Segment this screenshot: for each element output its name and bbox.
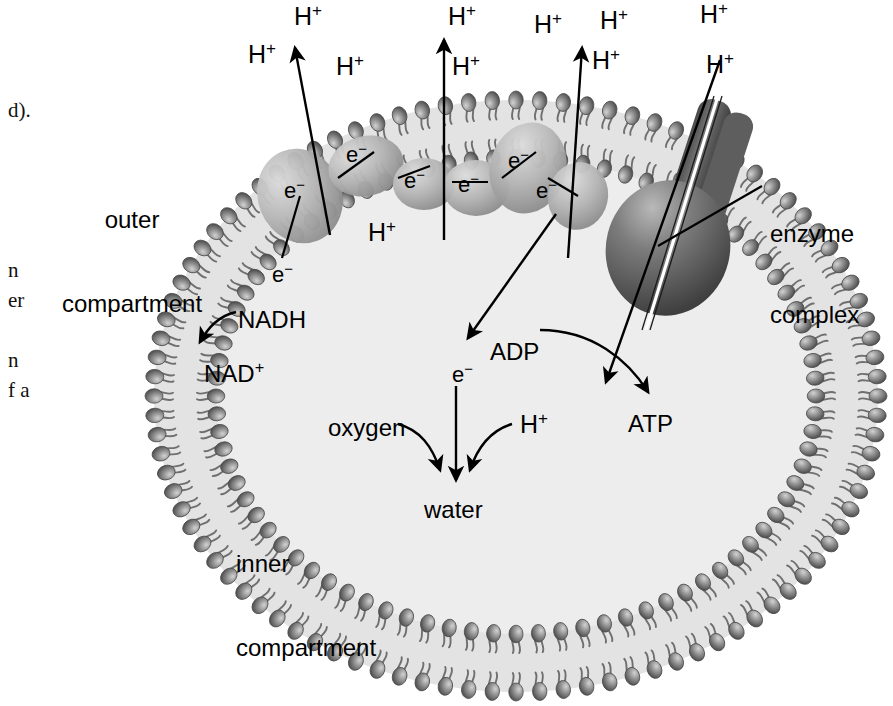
electron-label-text: e	[284, 178, 296, 203]
molecule-label-water-text: water	[424, 496, 483, 523]
electron-label-text: e	[508, 148, 520, 173]
proton-label-text: H	[368, 218, 386, 246]
molecule-label-nadh-text: NADH	[238, 306, 306, 333]
proton-label: H+	[452, 52, 480, 81]
proton-label-charge: +	[386, 217, 396, 236]
proton-label-text: H	[452, 52, 470, 80]
electron-label-charge: −	[284, 260, 293, 277]
electron-label-text: e	[272, 262, 284, 287]
proton-label: H+	[700, 0, 728, 29]
electron-label: e−	[284, 178, 305, 204]
proton-label: H+	[336, 52, 364, 81]
electron-label: e−	[272, 262, 293, 288]
electron-label: e−	[346, 142, 367, 168]
proton-label: H+	[600, 6, 628, 35]
proton-label-text: H	[592, 46, 610, 74]
proton-label-text: H	[520, 410, 538, 438]
proton-label: H+	[368, 218, 396, 247]
electron-label-charge: −	[520, 146, 529, 163]
proton-label-text: H	[706, 50, 724, 78]
proton-label: H+	[592, 46, 620, 75]
molecule-label-adp-text: ADP	[490, 338, 539, 365]
molecule-label-water: water	[424, 496, 483, 524]
region-label-inner-compartment: inner compartment	[236, 494, 376, 706]
molecule-label-oxygen-text: oxygen	[328, 414, 405, 441]
electron-label-text: e	[536, 178, 548, 203]
proton-label: H+	[534, 10, 562, 39]
proton-label: H+	[248, 40, 276, 69]
nadh-to-nad-arrow	[200, 312, 236, 342]
electron-label-charge: −	[358, 140, 367, 157]
molecule-label-adp: ADP	[490, 338, 539, 366]
molecule-label-oxygen: oxygen	[328, 414, 405, 442]
proton-label-text: H	[248, 40, 266, 68]
proton-label-text: H	[294, 2, 312, 30]
proton-label: H+	[706, 50, 734, 79]
proton-label-charge: +	[618, 5, 628, 24]
body-text-fragment: f a	[8, 378, 30, 403]
body-text-fragment: n	[8, 258, 19, 283]
electron-label-charge: −	[470, 170, 479, 187]
electron-label: e−	[536, 178, 557, 204]
proton-label-text: H	[448, 2, 466, 30]
molecule-label-atp-text: ATP	[628, 410, 673, 437]
electron-label: e−	[458, 172, 479, 198]
proton-label-text: H	[600, 6, 618, 34]
leader-e-carrier-1	[282, 196, 300, 258]
electron-label: e−	[508, 148, 529, 174]
proton-label-charge: +	[552, 9, 562, 28]
molecule-label-nad-plus-text: NAD	[204, 360, 255, 387]
electron-label-charge: −	[548, 176, 557, 193]
molecule-label-nad-plus: NAD+	[204, 360, 264, 388]
molecule-label-nadh: NADH	[238, 306, 306, 334]
body-text-fragment: er	[8, 288, 24, 313]
proton-label: H+	[520, 410, 548, 439]
molecule-label-atp: ATP	[628, 410, 673, 438]
proton-label: H+	[448, 2, 476, 31]
electron-label-text: e	[452, 362, 464, 387]
electron-label-charge: −	[296, 176, 305, 193]
electron-label-text: e	[346, 142, 358, 167]
proton-label-text: H	[336, 52, 354, 80]
proton-pump-arrow-1	[295, 48, 330, 235]
proton-label: H+	[294, 2, 322, 31]
proton-label-charge: +	[266, 39, 276, 58]
proton-label-text: H	[534, 10, 552, 38]
hplus-to-water-arrow	[470, 424, 512, 470]
molecule-label-nad-plus-charge: +	[255, 358, 265, 376]
proton-pump-arrow-3	[568, 48, 582, 258]
proton-label-charge: +	[724, 49, 734, 68]
electron-label-charge: −	[416, 166, 425, 183]
body-text-fragment: n	[8, 348, 19, 373]
proton-label-charge: +	[312, 1, 322, 20]
callout-enzyme-complex: enzyme complex	[770, 166, 859, 382]
electron-label: e−	[452, 362, 473, 388]
electron-label: e−	[404, 168, 425, 194]
proton-label-text: H	[700, 0, 718, 28]
proton-label-charge: +	[538, 409, 548, 428]
proton-label-charge: +	[466, 1, 476, 20]
proton-label-charge: +	[470, 51, 480, 70]
electron-label-text: e	[404, 168, 416, 193]
body-text-fragment: d).	[8, 98, 31, 123]
electron-label-text: e	[458, 172, 470, 197]
region-label-outer-compartment: outer compartment	[62, 150, 202, 374]
leader-enzyme-complex	[658, 186, 762, 246]
electron-to-oxygen-arrow	[468, 214, 556, 338]
adp-to-atp-arrow	[540, 330, 648, 392]
proton-label-charge: +	[610, 45, 620, 64]
proton-label-charge: +	[354, 51, 364, 70]
electron-label-charge: −	[464, 360, 473, 377]
proton-label-charge: +	[718, 0, 728, 18]
